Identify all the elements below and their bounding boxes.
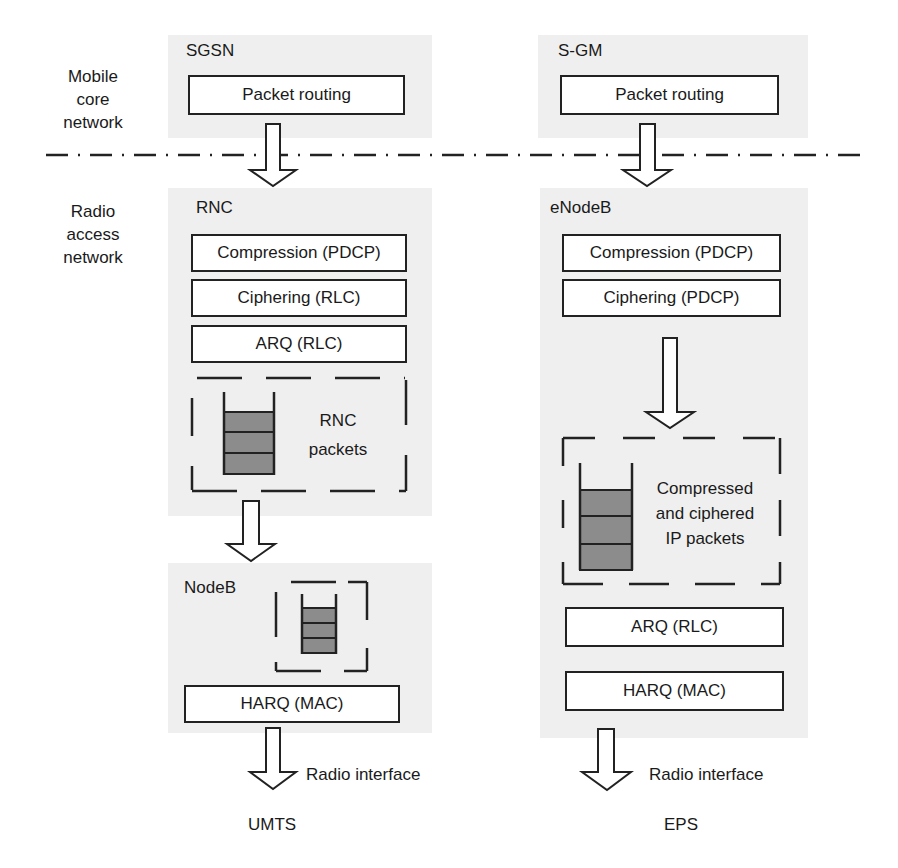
queue-label-line: IP packets <box>640 526 770 551</box>
rnc-arq-box: ARQ (RLC) <box>191 325 407 363</box>
eps-packet-routing-box: Packet routing <box>560 75 779 115</box>
enodeb-label: eNodeB <box>550 198 611 218</box>
side-label-line: network <box>48 246 138 269</box>
queue-label-line: and ciphered <box>640 501 770 526</box>
nodeb-label: NodeB <box>184 578 236 598</box>
enodeb-arq-box: ARQ (RLC) <box>565 607 784 647</box>
side-label-line: network <box>48 111 138 134</box>
nodeb-harq-box: HARQ (MAC) <box>184 685 400 723</box>
queue-label-line: Compressed <box>640 476 770 501</box>
umts-caption: UMTS <box>248 815 296 835</box>
rnc-packet-queue-icon <box>222 392 276 498</box>
queue-label-line: RNC <box>290 406 386 435</box>
mobile-core-network-label: Mobile core network <box>48 65 138 134</box>
side-label-line: Radio <box>48 200 138 223</box>
eps-caption: EPS <box>664 815 698 835</box>
nodeb-packet-queue-icon <box>300 594 338 658</box>
eps-radio-interface-label: Radio interface <box>649 765 763 785</box>
queue-label-line: packets <box>290 435 386 464</box>
enodeb-harq-box: HARQ (MAC) <box>565 671 784 711</box>
compressed-ciphered-ip-packets-label: Compressed and ciphered IP packets <box>640 476 770 551</box>
rnc-label: RNC <box>196 198 233 218</box>
radio-access-network-label: Radio access network <box>48 200 138 269</box>
enodeb-ciphering-box: Ciphering (PDCP) <box>562 279 781 317</box>
rnc-compression-box: Compression (PDCP) <box>191 234 407 272</box>
side-label-line: Mobile <box>48 65 138 88</box>
enodeb-packet-queue-icon <box>578 463 634 573</box>
umts-packet-routing-box: Packet routing <box>188 75 405 115</box>
side-label-line: access <box>48 223 138 246</box>
sgm-label: S-GM <box>558 41 602 61</box>
rnc-ciphering-box: Ciphering (RLC) <box>191 279 407 317</box>
enodeb-compression-box: Compression (PDCP) <box>562 234 781 272</box>
side-label-line: core <box>48 88 138 111</box>
rnc-packets-label: RNC packets <box>290 406 386 464</box>
umts-radio-interface-label: Radio interface <box>306 765 420 785</box>
sgsn-label: SGSN <box>186 41 234 61</box>
